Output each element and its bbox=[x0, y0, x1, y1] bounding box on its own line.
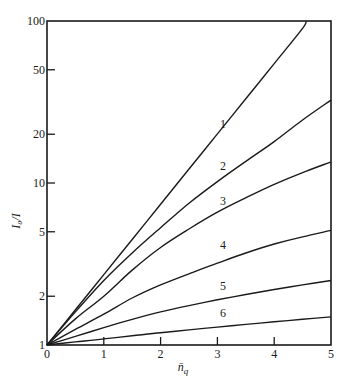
labels: 012345125102050100123456n̄qI₀/I bbox=[9, 14, 334, 376]
x-tick-label: 5 bbox=[328, 347, 334, 361]
curve-label-5: 5 bbox=[220, 279, 226, 293]
y-tick-label: 1 bbox=[39, 338, 45, 352]
curve-3 bbox=[47, 162, 331, 345]
y-tick-label: 2 bbox=[39, 289, 45, 303]
curve-5 bbox=[47, 281, 331, 346]
curves bbox=[47, 21, 331, 345]
curve-label-6: 6 bbox=[220, 306, 226, 320]
y-tick-label: 50 bbox=[33, 63, 45, 77]
y-tick-label: 20 bbox=[33, 127, 45, 141]
x-tick-label: 4 bbox=[271, 347, 277, 361]
curve-1 bbox=[47, 21, 306, 345]
x-axis-title: n̄q bbox=[178, 360, 189, 376]
y-tick-label: 10 bbox=[33, 176, 45, 190]
chart: 012345125102050100123456n̄qI₀/I bbox=[0, 0, 344, 382]
y-tick-label: 5 bbox=[39, 225, 45, 239]
y-axis-title: I₀/I bbox=[9, 212, 23, 230]
curve-label-4: 4 bbox=[220, 238, 226, 252]
curve-label-3: 3 bbox=[220, 194, 226, 208]
x-tick-label: 2 bbox=[158, 347, 164, 361]
x-tick-label: 3 bbox=[214, 347, 220, 361]
curve-label-2: 2 bbox=[220, 159, 226, 173]
y-tick-label: 100 bbox=[27, 14, 45, 28]
curve-label-1: 1 bbox=[220, 117, 226, 131]
x-tick-label: 1 bbox=[101, 347, 107, 361]
